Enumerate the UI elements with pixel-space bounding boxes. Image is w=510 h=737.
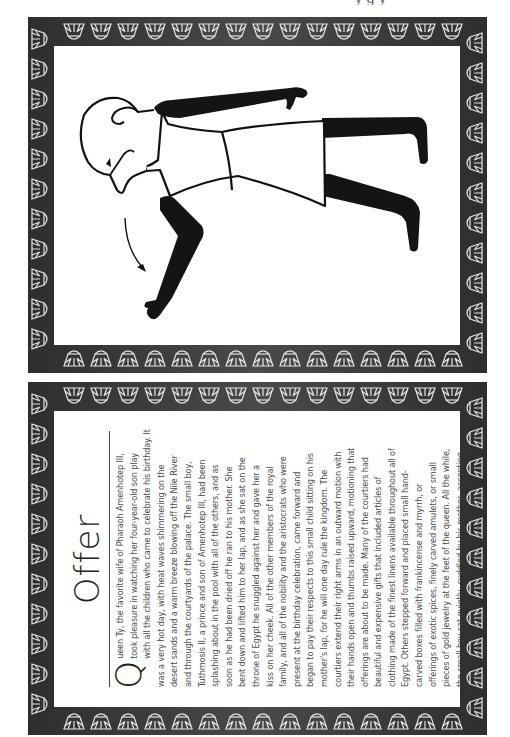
story-line: family, and all of the nobility and the …	[277, 429, 291, 687]
story-line: the small boy sat quietly, cuddled by hi…	[454, 429, 460, 687]
story-line: offerings of exotic spices, finely carve…	[427, 429, 441, 687]
story-title: Offer	[68, 425, 106, 693]
upper-arm	[154, 87, 307, 118]
story-line: Egypt. Others stepped forward and placed…	[399, 429, 413, 687]
illustration-panel	[28, 17, 487, 373]
lower-leg	[323, 174, 420, 252]
cut-off-text: y g y	[355, 0, 386, 5]
story-line: mother's lap, for he will one day rule t…	[318, 429, 332, 687]
story-line: ueen Ty, the favorite wife of Pharaoh Am…	[114, 429, 128, 687]
story-line: desert sands and a warm breeze blowing o…	[168, 429, 182, 687]
arrow-head-icon	[137, 264, 146, 272]
story-line: pieces of gold jewelry at the feet of th…	[440, 429, 454, 687]
story-line: clothing made of the finest linens avail…	[386, 429, 400, 687]
figure-bending-offering	[54, 46, 460, 345]
story-line: soon as he had been dried off he ran to …	[223, 429, 237, 687]
story-line: with all the children who came to celebr…	[141, 429, 155, 687]
upper-leg	[322, 117, 428, 164]
story-line: and through the courtyards of the palace…	[182, 429, 196, 687]
tunic	[146, 112, 325, 206]
story-line: took pleasure in watching her four-year-…	[128, 429, 142, 687]
drop-cap: Q	[115, 661, 143, 689]
lower-arm	[144, 196, 203, 319]
title-rule	[109, 431, 110, 687]
illustration-area	[54, 46, 460, 345]
story-line: kiss on her cheek. All of the other memb…	[264, 429, 278, 687]
lotus-row-top	[64, 24, 462, 39]
story-line: was a very hot day, with heat waves shim…	[155, 429, 169, 687]
story-line: began to pay their respects to this smal…	[304, 429, 318, 687]
story-line: present at the birthday celebration, cam…	[291, 429, 305, 687]
story-panel: Offer Q ueen Ty, the favorite wife of Ph…	[28, 382, 487, 735]
story-text-area: Offer Q ueen Ty, the favorite wife of Ph…	[54, 411, 460, 707]
story-line: Tuthmosis II, a prince and son of Amenho…	[196, 429, 210, 687]
story-line: splashing about in the pool with all of …	[209, 429, 223, 687]
story-line: throne of Egypt he snuggled against her …	[250, 429, 264, 687]
story-line: courtiers extend their right arms in an …	[332, 429, 346, 687]
cut-off-text-strip: y g y	[0, 0, 510, 5]
story-line: bent down and lifted him to her lap, and…	[236, 429, 250, 687]
story-line: beautiful and expensive gifts that inclu…	[372, 429, 386, 687]
head	[81, 98, 154, 193]
story-line: carved boxes filled with frankincense an…	[413, 429, 427, 687]
story-line: offerings are about to be made. Many of …	[359, 429, 373, 687]
rotated-story-block: Offer Q ueen Ty, the favorite wife of Ph…	[54, 411, 460, 707]
story-body: Q ueen Ty, the favorite wife of Pharaoh …	[114, 425, 460, 693]
story-line: their hands open and thumbs raised upwar…	[345, 429, 359, 687]
curved-arrow-motion	[125, 218, 143, 268]
